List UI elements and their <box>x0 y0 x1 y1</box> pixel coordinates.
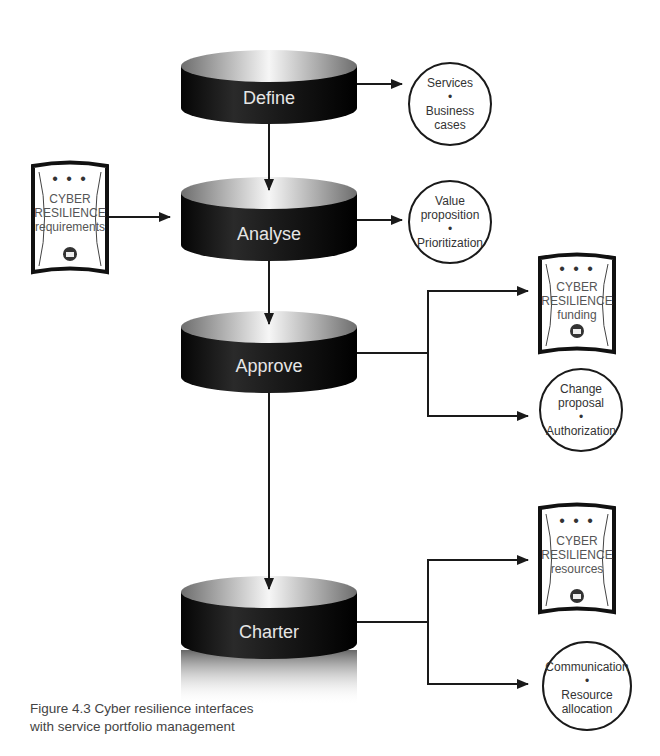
dots-icon: • • • <box>540 262 614 276</box>
output-services-text: Services • Business cases <box>410 76 490 132</box>
cylinder-define <box>181 50 357 124</box>
output-value-text: Value proposition • Prioritization <box>408 194 492 250</box>
stage-charter-label: Charter <box>181 622 357 643</box>
doc-funding-text: • • • CYBER RESILIENCE funding <box>540 262 614 322</box>
stage-analyse-label: Analyse <box>181 224 357 245</box>
dots-icon: • • • <box>540 514 614 528</box>
dots-icon: • • • <box>33 172 107 186</box>
doc-requirements-text: • • • CYBER RESILIENCE requirements <box>33 172 107 234</box>
output-communication-text: Communication • Resource allocation <box>541 660 633 716</box>
stage-define-label: Define <box>181 88 357 109</box>
output-change-text: Change proposal • Authorization <box>539 382 623 438</box>
doc-resources-text: • • • CYBER RESILIENCE resources <box>540 514 614 576</box>
stage-approve-label: Approve <box>181 356 357 377</box>
figure-caption: Figure 4.3 Cyber resilience interfaces w… <box>30 700 330 736</box>
